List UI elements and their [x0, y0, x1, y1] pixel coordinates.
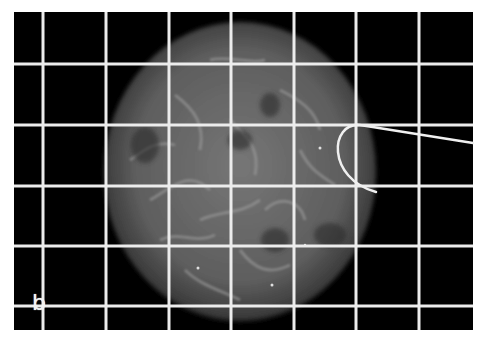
cell-nucleus: [104, 22, 376, 322]
micrograph-figure: b: [0, 0, 488, 354]
panel-label: b: [32, 292, 46, 314]
nucleus-group: [104, 22, 376, 322]
micrograph-svg: [0, 0, 488, 354]
